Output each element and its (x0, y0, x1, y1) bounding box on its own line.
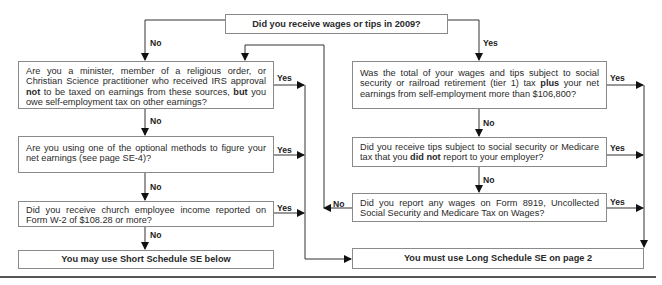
short-schedule-result-box: You may use Short Schedule SE below (18, 250, 274, 269)
right-question-3-box: Did you report any wages on Form 8919, U… (352, 193, 607, 222)
right-q1-emph-plus: plus (540, 78, 559, 88)
right-q3-text: Did you report any wages on Form 8919, U… (360, 198, 599, 218)
section-divider-rule (0, 276, 656, 278)
left-q1-emph-not: not (26, 87, 40, 97)
right-q2-emph-did-not: did not (410, 152, 441, 162)
right-q3-no-label: No (333, 199, 344, 209)
left-q3-yes-label: Yes (277, 203, 292, 213)
right-q2-no-label: No (483, 175, 494, 185)
right-question-2-box: Did you receive tips subject to social s… (352, 137, 607, 167)
left-q1-text-a: Are you a minister, member of a religiou… (26, 66, 266, 86)
right-q1-yes-label: Yes (610, 73, 625, 83)
start-no-label: No (150, 38, 161, 48)
left-q2-text: Are you using one of the optional method… (26, 143, 266, 163)
left-question-3-box: Did you receive church employee income r… (18, 201, 274, 227)
long-schedule-result-text: You must use Long Schedule SE on page 2 (404, 253, 592, 263)
long-schedule-result-box: You must use Long Schedule SE on page 2 (352, 248, 644, 269)
left-q3-text: Did you receive church employee income r… (26, 205, 266, 225)
left-q1-yes-label: Yes (277, 73, 292, 83)
left-q2-no-label: No (150, 182, 161, 192)
left-q1-no-label: No (150, 116, 161, 126)
left-q2-yes-label: Yes (277, 145, 292, 155)
right-q3-yes-label: Yes (610, 197, 625, 207)
right-question-1-box: Was the total of your wages and tips sub… (352, 61, 607, 109)
start-question-box: Did you receive wages or tips in 2009? (225, 14, 448, 34)
left-question-1-box: Are you a minister, member of a religiou… (18, 61, 274, 109)
left-question-2-box: Are you using one of the optional method… (18, 136, 274, 173)
start-question-text: Did you receive wages or tips in 2009? (252, 19, 421, 29)
left-q1-text-b: to be taxed on earnings from these sourc… (40, 87, 233, 97)
right-q1-no-label: No (483, 118, 494, 128)
start-yes-label: Yes (483, 38, 498, 48)
right-q2-text-b: report to your employer? (441, 152, 544, 162)
left-q3-no-label: No (150, 230, 161, 240)
short-schedule-result-text: You may use Short Schedule SE below (61, 254, 230, 264)
right-q2-yes-label: Yes (610, 143, 625, 153)
left-q1-emph-but: but (233, 87, 247, 97)
